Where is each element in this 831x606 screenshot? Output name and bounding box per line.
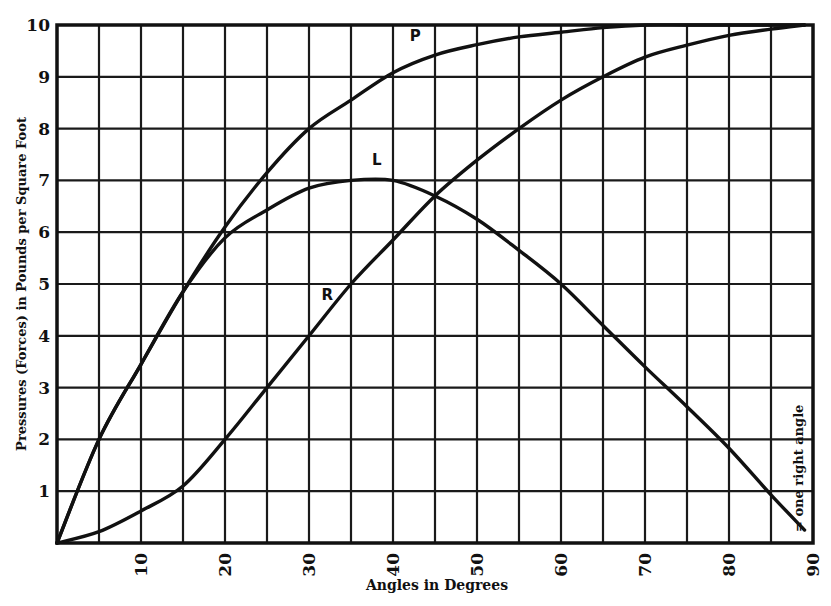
y-tick-label: 9 bbox=[38, 67, 50, 87]
series-L-label: L bbox=[372, 151, 382, 169]
x-tick-labels: 102030405060708090 bbox=[131, 553, 823, 577]
x-axis-label: Angles in Degrees bbox=[365, 577, 508, 593]
y-tick-label: 10 bbox=[26, 15, 50, 35]
y-tick-label: 3 bbox=[38, 378, 50, 398]
chart: PLR 12345678910 102030405060708090 Press… bbox=[0, 0, 831, 606]
y-axis-label: Pressures (Forces) in Pounds per Square … bbox=[14, 117, 29, 451]
series-R-label: R bbox=[322, 286, 334, 304]
series-P-label: P bbox=[410, 27, 421, 45]
x-tick-label: 20 bbox=[215, 553, 235, 577]
x-tick-label: 10 bbox=[131, 553, 151, 577]
y-tick-label: 8 bbox=[38, 119, 50, 139]
x-tick-label: 30 bbox=[299, 553, 319, 577]
grid bbox=[57, 25, 813, 543]
y-tick-label: 4 bbox=[38, 326, 50, 346]
y-tick-labels: 12345678910 bbox=[26, 15, 50, 501]
right-angle-annotation: = one right angle bbox=[791, 405, 806, 532]
x-tick-label: 80 bbox=[719, 553, 739, 577]
y-tick-label: 1 bbox=[38, 481, 50, 501]
y-tick-label: 2 bbox=[38, 429, 50, 449]
x-tick-label: 70 bbox=[635, 553, 655, 577]
y-tick-label: 7 bbox=[38, 170, 50, 190]
x-tick-label: 50 bbox=[467, 553, 487, 577]
x-tick-label: 60 bbox=[551, 553, 571, 577]
series-L-line bbox=[57, 179, 805, 543]
x-tick-label: 40 bbox=[383, 553, 403, 577]
x-tick-label: 90 bbox=[803, 553, 823, 577]
y-tick-label: 5 bbox=[38, 274, 50, 294]
y-tick-label: 6 bbox=[38, 222, 50, 242]
